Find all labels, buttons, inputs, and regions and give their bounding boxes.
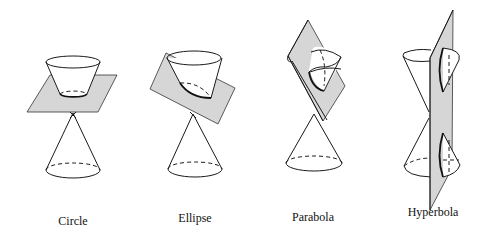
hyperbola-figure (403, 10, 460, 210)
circle-figure (27, 56, 117, 178)
label-ellipse: Ellipse (178, 211, 211, 226)
hyperbola-cones (403, 49, 431, 177)
label-circle: Circle (58, 214, 87, 229)
parabola-figure (286, 20, 345, 171)
label-parabola: Parabola (292, 210, 334, 225)
circle-lower-cone (46, 113, 100, 178)
ellipse-lower-cone (168, 114, 222, 177)
hyperbola-cutting-plane (430, 10, 453, 210)
ellipse-figure (150, 51, 235, 177)
label-hyperbola: Hyperbola (408, 205, 459, 220)
parabola-lower-cone (286, 114, 342, 171)
